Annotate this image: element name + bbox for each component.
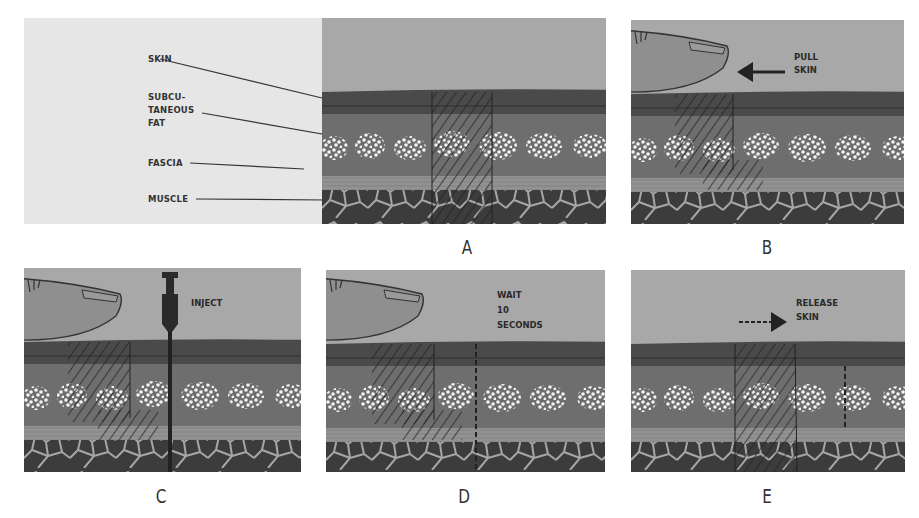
- caption-a: A: [455, 236, 479, 258]
- caption-b: B: [755, 236, 779, 258]
- label-subcutaneous-3: FAT: [148, 117, 165, 129]
- label-muscle: MUSCLE: [148, 193, 188, 205]
- instruction-wait: WAIT: [497, 289, 522, 301]
- instruction-pull: PULL: [794, 51, 818, 63]
- label-subcutaneous-1: SUBCU-: [148, 91, 185, 103]
- caption-c: C: [149, 485, 173, 507]
- panel-d-illustration: [326, 270, 605, 472]
- instruction-inject: INJECT: [191, 297, 222, 309]
- caption-d: D: [452, 485, 476, 507]
- panel-a-illustration: [322, 18, 606, 224]
- label-fascia: FASCIA: [148, 157, 183, 169]
- panel-b-illustration: [631, 20, 904, 224]
- instruction-10: 10: [497, 304, 509, 316]
- panel-c-illustration: [24, 268, 301, 472]
- label-skin: SKIN: [148, 53, 172, 65]
- label-subcutaneous-2: TANEOUS: [148, 104, 194, 116]
- instruction-release: RELEASE: [796, 297, 838, 309]
- instruction-seconds: SECONDS: [497, 319, 543, 331]
- panel-e-illustration: [631, 270, 905, 472]
- instruction-skin: SKIN: [794, 64, 817, 76]
- instruction-skin-e: SKIN: [796, 311, 819, 323]
- caption-e: E: [755, 485, 779, 507]
